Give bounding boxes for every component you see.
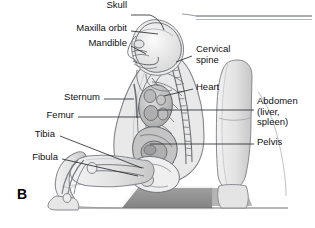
label-cervical-spine: Cervical spine bbox=[196, 44, 230, 65]
label-pelvis: Pelvis bbox=[257, 137, 282, 148]
label-fibula: Fibula bbox=[4, 152, 58, 163]
label-maxilla-orbit: Maxilla orbit bbox=[37, 23, 127, 34]
label-femur: Femur bbox=[14, 110, 74, 121]
label-heart: Heart bbox=[196, 82, 219, 93]
seat-back-rail bbox=[182, 14, 312, 20]
label-abdomen: Abdomen (liver, spleen) bbox=[257, 96, 298, 128]
label-tibia: Tibia bbox=[5, 129, 55, 140]
panel-letter-label: B bbox=[17, 186, 27, 202]
anatomy-figure-panel: Skull Maxilla orbit Mandible Sternum Fem… bbox=[0, 0, 315, 228]
seat-cushion bbox=[60, 186, 288, 210]
arm bbox=[216, 60, 252, 208]
label-skull: Skull bbox=[57, 0, 127, 11]
label-mandible: Mandible bbox=[47, 38, 127, 49]
label-sternum: Sternum bbox=[30, 92, 100, 103]
